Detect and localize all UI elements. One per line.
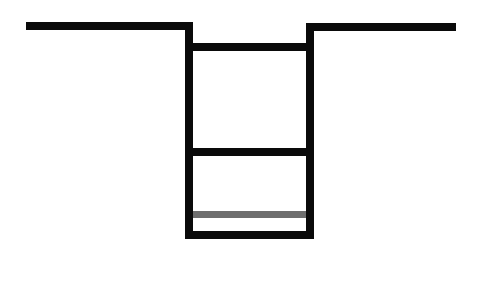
middle-rung (185, 148, 314, 156)
ground-line-left (26, 22, 193, 30)
trench-wall-left (185, 22, 193, 239)
upper-rung (185, 43, 314, 51)
trench-bottom (185, 231, 314, 239)
trench-wall-right (306, 23, 314, 239)
gray-layer-line (193, 211, 306, 218)
ground-line-right (306, 23, 456, 31)
